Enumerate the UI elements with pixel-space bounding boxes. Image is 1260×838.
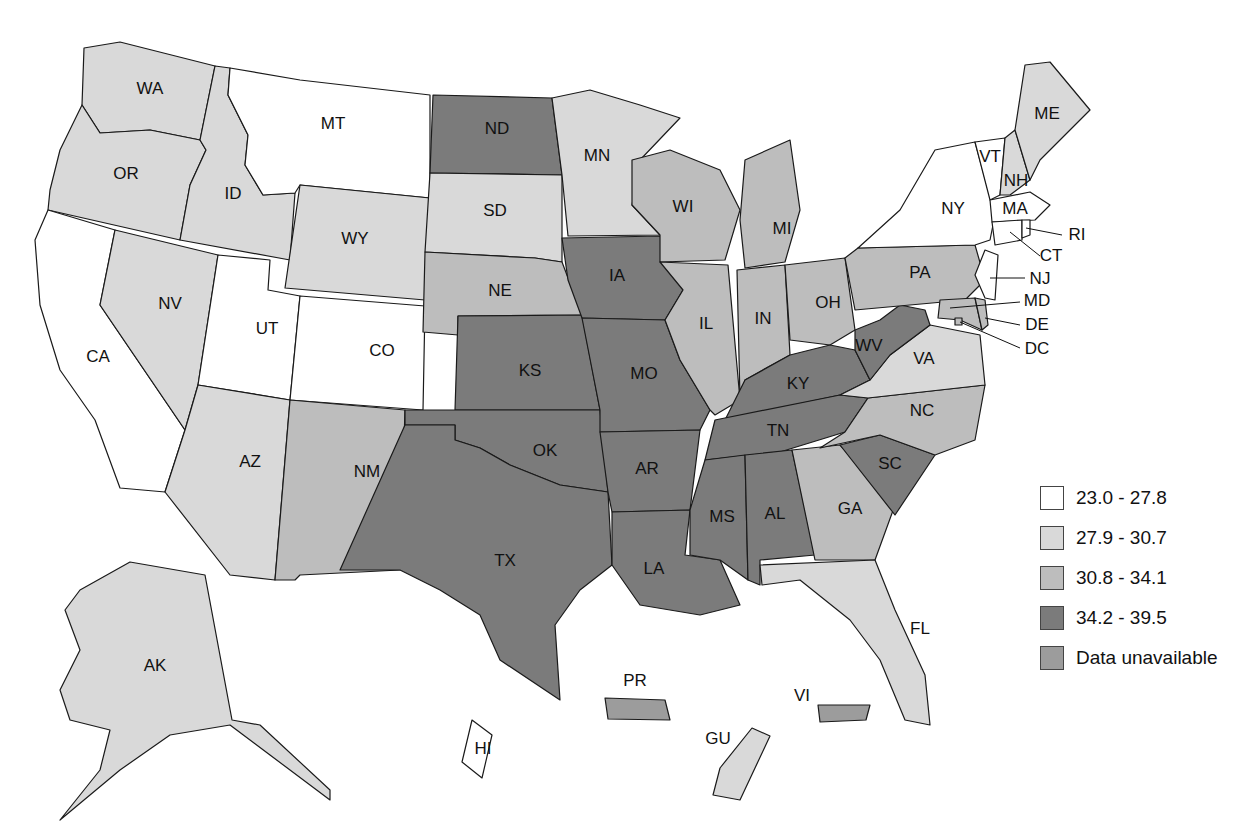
label-co: CO bbox=[369, 341, 395, 360]
label-sd: SD bbox=[483, 201, 507, 220]
label-ny: NY bbox=[941, 199, 965, 218]
legend-label: Data unavailable bbox=[1076, 647, 1218, 669]
label-ne: NE bbox=[488, 281, 512, 300]
label-de: DE bbox=[1025, 315, 1049, 334]
label-az: AZ bbox=[239, 452, 261, 471]
us-choropleth-map: WA OR ID MT WY CA NV UT CO AZ NM ND SD N… bbox=[0, 0, 1260, 838]
legend-item-c1: 23.0 - 27.8 bbox=[1040, 478, 1260, 518]
legend-item-c4: 34.2 - 39.5 bbox=[1040, 598, 1260, 638]
label-nc: NC bbox=[910, 401, 935, 420]
leader-line-de bbox=[985, 318, 1020, 325]
label-ma: MA bbox=[1002, 199, 1028, 218]
label-nd: ND bbox=[485, 119, 510, 138]
label-sc: SC bbox=[878, 454, 902, 473]
label-nm: NM bbox=[354, 462, 380, 481]
label-gu: GU bbox=[705, 729, 731, 748]
legend-label: 34.2 - 39.5 bbox=[1076, 607, 1167, 629]
territory-vi[interactable] bbox=[818, 705, 870, 722]
label-vt: VT bbox=[979, 147, 1001, 166]
legend-item-na: Data unavailable bbox=[1040, 638, 1260, 678]
state-mi[interactable] bbox=[740, 140, 800, 268]
legend-label: 23.0 - 27.8 bbox=[1076, 487, 1167, 509]
label-nh: NH bbox=[1004, 171, 1029, 190]
state-co[interactable] bbox=[290, 296, 425, 410]
label-or: OR bbox=[113, 164, 139, 183]
territory-pr[interactable] bbox=[605, 698, 670, 720]
label-me: ME bbox=[1034, 104, 1060, 123]
label-il: IL bbox=[699, 314, 713, 333]
label-hi: HI bbox=[475, 739, 492, 758]
label-pa: PA bbox=[909, 263, 931, 282]
state-ct[interactable] bbox=[992, 220, 1022, 245]
label-vi: VI bbox=[794, 686, 810, 705]
state-ny[interactable] bbox=[858, 142, 995, 248]
label-dc: DC bbox=[1025, 339, 1050, 358]
label-ky: KY bbox=[787, 374, 810, 393]
legend-item-c3: 30.8 - 34.1 bbox=[1040, 558, 1260, 598]
label-ks: KS bbox=[519, 361, 542, 380]
map-legend: 23.0 - 27.8 27.9 - 30.7 30.8 - 34.1 34.2… bbox=[1040, 478, 1260, 678]
legend-swatch bbox=[1040, 486, 1064, 510]
label-la: LA bbox=[644, 559, 665, 578]
label-wi: WI bbox=[673, 197, 694, 216]
label-tx: TX bbox=[494, 551, 516, 570]
label-va: VA bbox=[913, 349, 935, 368]
label-ut: UT bbox=[256, 319, 279, 338]
legend-item-c2: 27.9 - 30.7 bbox=[1040, 518, 1260, 558]
label-wv: WV bbox=[855, 336, 883, 355]
label-ms: MS bbox=[709, 507, 735, 526]
label-tn: TN bbox=[767, 421, 790, 440]
legend-label: 30.8 - 34.1 bbox=[1076, 567, 1167, 589]
label-al: AL bbox=[765, 504, 786, 523]
label-pr: PR bbox=[623, 671, 647, 690]
label-mt: MT bbox=[321, 114, 346, 133]
legend-swatch bbox=[1040, 646, 1064, 670]
legend-swatch bbox=[1040, 606, 1064, 630]
label-mi: MI bbox=[773, 219, 792, 238]
label-mo: MO bbox=[630, 364, 657, 383]
label-wy: WY bbox=[341, 229, 368, 248]
leader-line-ri bbox=[1026, 228, 1062, 235]
legend-swatch bbox=[1040, 526, 1064, 550]
label-wa: WA bbox=[137, 79, 164, 98]
label-ct: CT bbox=[1040, 246, 1063, 265]
label-ak: AK bbox=[144, 656, 167, 675]
label-id: ID bbox=[225, 184, 242, 203]
label-ga: GA bbox=[838, 499, 863, 518]
label-ok: OK bbox=[533, 441, 558, 460]
label-ca: CA bbox=[86, 347, 110, 366]
label-ia: IA bbox=[609, 266, 626, 285]
label-ri: RI bbox=[1069, 225, 1086, 244]
label-oh: OH bbox=[815, 293, 841, 312]
legend-label: 27.9 - 30.7 bbox=[1076, 527, 1167, 549]
state-dc[interactable] bbox=[955, 318, 962, 325]
state-ak[interactable] bbox=[60, 562, 330, 820]
label-ar: AR bbox=[635, 459, 659, 478]
label-fl: FL bbox=[910, 619, 930, 638]
label-nj: NJ bbox=[1030, 269, 1051, 288]
state-fl[interactable] bbox=[760, 560, 930, 725]
legend-swatch bbox=[1040, 566, 1064, 590]
label-in: IN bbox=[755, 309, 772, 328]
label-md: MD bbox=[1024, 291, 1050, 310]
label-nv: NV bbox=[158, 294, 182, 313]
label-mn: MN bbox=[584, 146, 610, 165]
